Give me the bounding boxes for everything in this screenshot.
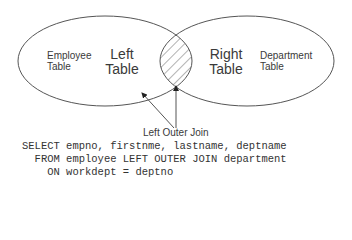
right-table-label: Right Table (208, 47, 244, 78)
sql-line-select: SELECT empno, firstnme, lastname, deptna… (22, 140, 287, 153)
employee-table-label: Employee Table (47, 50, 91, 72)
employee-label-line2: Table (47, 61, 91, 72)
right-label-line1: Right (208, 47, 244, 62)
arrow-to-left-table (142, 93, 174, 128)
right-label-line2: Table (208, 62, 244, 77)
employee-label-line1: Employee (47, 50, 91, 61)
sql-line-from: FROM employee LEFT OUTER JOIN department (22, 153, 287, 166)
department-label-line1: Department (260, 50, 312, 61)
department-label-line2: Table (260, 61, 312, 72)
sql-query: SELECT empno, firstnme, lastname, deptna… (22, 140, 287, 179)
department-table-label: Department Table (260, 50, 312, 72)
left-table-label: Left Table (104, 47, 140, 78)
left-label-line2: Table (104, 62, 140, 77)
sql-line-on: ON workdept = deptno (22, 166, 287, 179)
left-label-line1: Left (104, 47, 140, 62)
join-label: Left Outer Join (143, 127, 209, 138)
